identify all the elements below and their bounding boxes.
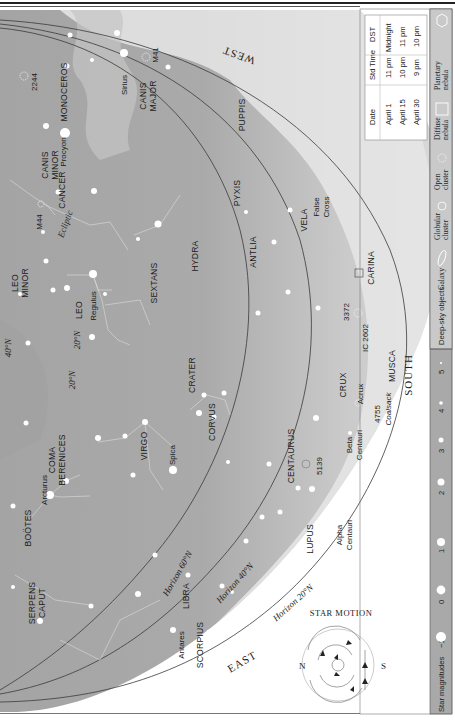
star-label-regulus: Regulus — [89, 291, 98, 320]
mag-label: 0 — [437, 600, 446, 604]
object-label-2244: 2244 — [30, 73, 39, 91]
constellation-libra: LIBRA — [181, 583, 191, 609]
table-cell: 9 pm — [412, 59, 421, 76]
star-label-alpha-centauri: AlphaCentauri — [335, 520, 354, 550]
object-label-ic2602: IC 2602 — [361, 323, 370, 352]
mag-dot-icon — [439, 438, 444, 443]
constellation-vela: VELA — [299, 209, 309, 232]
latitude-label-20n-b: 20°N — [67, 370, 77, 390]
constellation-bootes: BOÖTES — [23, 509, 33, 546]
table-header-date: Date — [368, 109, 377, 125]
mag-dot-icon — [440, 362, 442, 364]
constellation-monoceros: MONOCEROS — [59, 62, 69, 121]
table-cell: April 1 — [384, 103, 393, 125]
mag-label: 1 — [437, 549, 446, 553]
constellation-centaurus: CENTAURUS — [286, 429, 296, 484]
latitude-label-40n: 40°N — [3, 338, 13, 358]
constellation-antlia: ANTLIA — [248, 236, 258, 267]
table-cell: 10 pm — [398, 57, 407, 78]
constellation-leo: LEO — [74, 301, 84, 319]
latitude-label-20n-a: 20°N — [72, 330, 82, 350]
mag-label: 5 — [437, 370, 446, 374]
table-header-dst: DST — [368, 26, 377, 42]
table-cell: Midnight — [384, 22, 393, 52]
deep-sky-objects-label: Deep-sky objects — [437, 287, 446, 345]
constellation-virgo: VIRGO — [139, 432, 149, 461]
constellation-musca: MUSCA — [387, 350, 397, 382]
star-label-sirius: Sirius — [120, 75, 129, 95]
constellation-sextans: SEXTANS — [149, 263, 159, 304]
constellation-carina: CARINA — [366, 251, 376, 285]
star-label-acrux: Acrux — [356, 384, 365, 404]
star-magnitudes-label: Star magnitudes — [437, 657, 446, 712]
mag-dot-icon — [437, 586, 446, 595]
star-motion-title: STAR MOTION — [310, 608, 373, 618]
star-motion-diagram: STAR MOTION N S — [299, 608, 386, 703]
note-false-cross: FalseCross — [312, 197, 331, 218]
constellation-cancer: CANCER — [57, 171, 67, 209]
mag-label: 2 — [437, 491, 446, 495]
motion-s-label: S — [381, 661, 386, 671]
direction-south: SOUTH — [402, 354, 414, 396]
mag-label: 3 — [437, 449, 446, 453]
constellation-hydra: HYDRA — [190, 240, 200, 271]
legend-galaxy-label: Galaxy — [437, 268, 446, 290]
mag-dot-icon — [438, 479, 445, 486]
constellation-corvus: CORVUS — [207, 403, 217, 441]
table-cell: April 30 — [412, 99, 421, 125]
constellation-canis-major: CANISMAJOR — [138, 80, 158, 111]
constellation-lupus: LUPUS — [305, 524, 315, 554]
legend-diffuse-nebula-label: Diffusenebula — [433, 117, 450, 140]
table-cell: 10 pm — [412, 26, 421, 47]
constellation-crater: CRATER — [187, 357, 197, 393]
object-label-m41: M41 — [151, 47, 160, 63]
note-coalsack: Coalsack — [384, 392, 393, 426]
star-chart: 2244 MONOCEROS CANISMINOR Procyon Sirius… — [0, 0, 455, 722]
constellation-puppis: PUPPIS — [237, 99, 247, 132]
table-cell: April 15 — [398, 99, 407, 125]
time-table: Date Std Time DST April 1 11 pm Midnight… — [365, 15, 427, 140]
constellation-scorpius: SCORPIUS — [195, 622, 205, 669]
mag-dot-icon — [437, 538, 445, 546]
object-label-3372: 3372 — [342, 303, 351, 321]
object-label-5139: 5139 — [315, 457, 324, 475]
constellation-pyxis: PYXIS — [232, 180, 242, 206]
mag-dot-icon — [436, 632, 446, 642]
table-cell: 11 pm — [398, 26, 407, 47]
table-header-std-time: Std Time — [368, 50, 377, 80]
deep-sky-legend: Deep-sky objects Galaxy Globularcluster … — [430, 9, 452, 349]
star-label-procyon: Procyon — [59, 137, 68, 166]
direction-east: EAST — [225, 648, 258, 674]
mag-dot-icon — [439, 401, 443, 405]
constellation-crux: CRUX — [338, 372, 348, 397]
star-label-spica: Spica — [168, 444, 177, 465]
star-label-antares: Antares — [177, 631, 186, 659]
table-cell: 11 pm — [384, 57, 393, 78]
constellation-serpens-caput: SERPENSCAPUT — [27, 582, 47, 625]
star-label-arcturus: Arcturus — [40, 475, 49, 505]
object-label-4755: 4755 — [373, 405, 382, 423]
motion-n-label: N — [299, 661, 306, 671]
mag-label: 4 — [437, 409, 446, 413]
object-label-m44: M44 — [35, 214, 44, 230]
